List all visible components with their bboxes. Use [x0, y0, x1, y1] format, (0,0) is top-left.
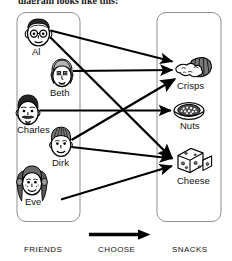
snack-label-cheese: Cheese	[177, 175, 210, 186]
friend-label-beth: Beth	[50, 87, 70, 98]
bottom-label-snacks: SNACKS	[172, 245, 208, 254]
friend-icon-beth	[51, 59, 73, 86]
snack-icon-nuts	[174, 103, 204, 120]
friend-label-charles: Charles	[17, 124, 50, 135]
friend-icon-dirk	[50, 127, 73, 156]
diagram-figure: diagram looks like this:	[0, 0, 232, 261]
friend-label-eve: Eve	[25, 196, 41, 207]
snack-label-crisps: Crisps	[177, 80, 204, 91]
bottom-label-choose: CHOOSE	[98, 245, 135, 254]
friend-label-dirk: Dirk	[52, 157, 69, 168]
friend-icon-charles	[16, 95, 40, 125]
friend-label-al: Al	[32, 46, 40, 57]
choose-arrow-icon	[89, 229, 151, 239]
snack-label-nuts: Nuts	[180, 120, 200, 131]
bottom-label-friends: FRIENDS	[24, 245, 62, 254]
arrow-beth-to-crisps	[73, 70, 173, 71]
